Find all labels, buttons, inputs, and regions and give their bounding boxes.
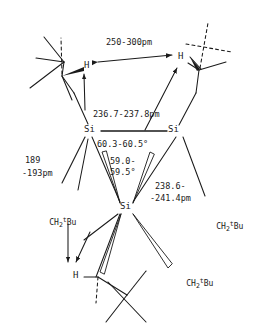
bond-si-left-sub-a (62, 137, 85, 183)
ch2-text: CH (216, 222, 226, 231)
bond-bottom-dashed (96, 277, 98, 303)
arrow-h-h-distance (98, 55, 172, 62)
bond-right-dashed-cross (186, 44, 232, 52)
atom-label-h-bottom: H (73, 271, 78, 280)
arrow-down-left-b (76, 232, 90, 262)
wedge-left-h (62, 67, 84, 76)
ch2-text: CH (49, 218, 59, 227)
atom-label-si-right: Si (168, 125, 179, 134)
tbu-text: Bu (204, 279, 214, 288)
bond-left-dashed (61, 38, 62, 74)
bond-bottom-si-ch (96, 214, 120, 277)
bond-tbu-left-a (36, 58, 64, 62)
measurement-si-c-short-line2: -193pm (22, 169, 53, 178)
bond-right-c-si (179, 93, 196, 125)
measurement-si-c-short-line1: 189 (25, 156, 40, 165)
bond-tbu-right-b (196, 70, 199, 93)
tbu-text: Bu (234, 222, 244, 231)
group-label-ch2tbu-bottom: CH2tBu (167, 270, 213, 299)
arrow-to-left-h (84, 74, 85, 110)
bond-tbu-left-c (30, 62, 64, 88)
ch2-text: CH (186, 279, 196, 288)
hollow-wedge-bottom-ch2tbu (133, 214, 172, 268)
bond-tbu-right-a (199, 62, 226, 70)
measurement-si-c-long-line2: -241.4pm (150, 194, 191, 203)
hollow-wedge-bottom-ch (100, 214, 121, 274)
atom-label-h-top-right: H (178, 52, 183, 61)
bond-si-left-up (74, 93, 88, 124)
measurement-angle-bottom-line1: 59.0- (110, 157, 136, 166)
structure-diagram: Si Si Si H H H CH2tBu CH2tBu CH2tBu 250-… (0, 0, 253, 336)
atom-label-si-bottom: Si (120, 202, 131, 211)
measurement-h-h-distance: 250-300pm (106, 38, 152, 47)
measurement-si-si-distance: 236.7-237.8pm (93, 110, 160, 119)
measurement-angle-top: 60.3-60.5° (97, 140, 148, 149)
group-label-ch2tbu-left: CH2tBu (30, 209, 76, 238)
tbu-text: Bu (67, 218, 77, 227)
bond-right-dashed-up (200, 23, 208, 68)
measurement-si-c-long-line1: 238.6- (155, 182, 186, 191)
arrow-to-right-h (145, 68, 177, 130)
bond-bottom-tbu-c (108, 282, 146, 322)
group-label-ch2tbu-right: CH2tBu (197, 213, 243, 242)
measurement-angle-bottom-line2: 59.5° (110, 168, 136, 177)
bond-si-left-sub-b (78, 139, 88, 190)
atom-label-h-top-left: H (84, 61, 89, 70)
bond-bottom-tbu-a (127, 271, 146, 295)
atom-label-si-left: Si (84, 125, 95, 134)
bond-si-right-sub-a (183, 137, 205, 196)
